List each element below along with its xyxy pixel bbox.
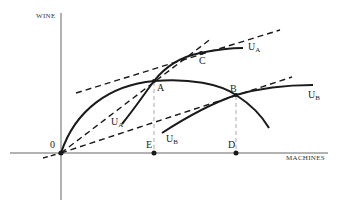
point-e-label: E [146, 140, 152, 150]
point-d-label: D [228, 140, 235, 150]
point-d [234, 151, 239, 156]
ray-extension-below-origin [43, 153, 61, 158]
point-b-label: B [230, 84, 237, 94]
ua-upper-label: UA [248, 42, 260, 54]
indifference-curve-ua [122, 48, 243, 124]
x-axis-label: MACHINES [286, 155, 325, 162]
diagram-canvas [0, 0, 337, 209]
point-a [152, 79, 156, 83]
trade-gains-diagram: WINE MACHINES 0 A B C D E UA UA UB UB [0, 0, 337, 209]
origin-label: 0 [50, 140, 55, 150]
ub-upper-label: UB [308, 90, 320, 102]
indifference-curve-ub [162, 85, 313, 133]
y-axis-label: WINE [36, 13, 55, 20]
point-origin [59, 151, 64, 156]
ub-lower-label: UB [166, 134, 178, 146]
ua-lower-label: UA [111, 117, 123, 129]
point-a-label: A [157, 83, 164, 93]
point-e [152, 151, 157, 156]
point-c-label: C [199, 56, 206, 66]
